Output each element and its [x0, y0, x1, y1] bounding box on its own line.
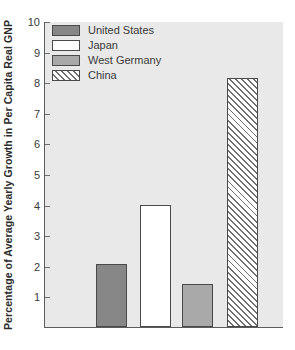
y-axis-tick-mark — [45, 144, 50, 145]
legend-swatch-west-germany — [52, 55, 80, 66]
legend-item: West Germany — [52, 54, 161, 67]
y-axis-tick-labels: 10987654321 — [18, 0, 40, 350]
y-axis-tick-mark — [45, 53, 50, 54]
y-axis-tick-mark — [45, 83, 50, 84]
legend-item: China — [52, 69, 161, 82]
bar-chart: Percentage of Average Yearly Growth in P… — [0, 0, 295, 350]
y-axis-tick-label: 7 — [18, 108, 40, 120]
bar-china — [227, 78, 258, 327]
legend-label: Japan — [88, 40, 118, 51]
y-axis-tick-label: 3 — [18, 230, 40, 242]
legend-swatch-china — [52, 70, 80, 81]
y-axis-tick-label: 10 — [18, 16, 40, 28]
legend-label: West Germany — [88, 55, 161, 66]
y-axis-tick-mark — [45, 267, 50, 268]
y-axis-tick-mark — [45, 22, 50, 23]
bar-west-germany — [182, 284, 213, 327]
y-axis-tick-label: 2 — [18, 261, 40, 273]
chart-legend: United StatesJapanWest GermanyChina — [52, 24, 161, 82]
y-axis-tick-mark — [45, 236, 50, 237]
legend-label: China — [88, 70, 117, 81]
y-axis-tick-label: 4 — [18, 200, 40, 212]
y-axis-tick-mark — [45, 297, 50, 298]
y-axis-tick-mark — [45, 206, 50, 207]
y-axis-tick-mark — [45, 114, 50, 115]
y-axis-tick-label: 6 — [18, 138, 40, 150]
y-axis-tick-label: 8 — [18, 77, 40, 89]
y-axis-tick-mark — [45, 175, 50, 176]
legend-swatch-japan — [52, 40, 80, 51]
legend-item: United States — [52, 24, 161, 37]
legend-item: Japan — [52, 39, 161, 52]
legend-label: United States — [88, 25, 154, 36]
y-axis-tick-label: 1 — [18, 291, 40, 303]
bar-japan — [140, 205, 171, 327]
y-axis-tick-label: 9 — [18, 47, 40, 59]
bar-united-states — [96, 264, 127, 327]
y-axis-tick-label: 5 — [18, 169, 40, 181]
legend-swatch-united-states — [52, 25, 80, 36]
y-axis-title: Percentage of Average Yearly Growth in P… — [0, 0, 16, 350]
